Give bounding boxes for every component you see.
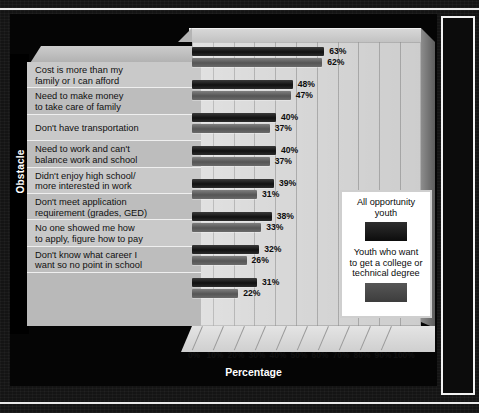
x-axis-tick-labels: 0%10%20%30%40%50%60%70%80%90%100%: [190, 350, 440, 364]
chart-legend: All opportunity youth Youth who want to …: [340, 190, 432, 318]
bar-value-label-1-6: 26%: [252, 255, 269, 265]
bar-0-0: [192, 47, 324, 56]
category-label-0-line2: family or I can afford: [35, 76, 195, 87]
top-divider-rule: [0, 8, 479, 10]
x-tick-90: 90%: [375, 350, 392, 360]
bar-value-label-0-3: 40%: [281, 145, 298, 155]
plot-top-slab-bevel: [189, 28, 421, 43]
bar-0-1: [192, 80, 293, 89]
category-label-3-line2: balance work and school: [35, 155, 195, 166]
floor-leader-50: [276, 326, 287, 350]
x-tick-40: 40%: [270, 350, 287, 360]
category-label-6-line1: No one showed me how: [35, 223, 195, 234]
floor-leader-40: [255, 326, 266, 350]
category-label-6: No one showed me howto apply, figure how…: [27, 220, 201, 246]
bar-value-label-1-7: 22%: [243, 288, 260, 298]
bar-value-label-1-5: 33%: [266, 222, 283, 232]
plot-floor: [181, 326, 435, 352]
legend-entry-2-line1: Youth who want: [354, 247, 419, 257]
category-label-7-line1: Don't know what career I: [35, 250, 195, 261]
bar-0-4: [192, 179, 274, 188]
x-tick-70: 70%: [333, 350, 350, 360]
floor-leader-100: [381, 326, 392, 350]
right-side-panel: [441, 16, 475, 395]
category-label-4-line2: more interested in work: [35, 181, 195, 192]
bar-0-5: [192, 212, 272, 221]
bar-1-3: [192, 157, 270, 166]
legend-entry-2-line2: to get a college or: [349, 258, 422, 268]
bar-1-4: [192, 190, 257, 199]
category-label-1-line2: to take care of family: [35, 102, 195, 113]
legend-swatch-college-degree-youth: [365, 283, 407, 302]
bar-1-2: [192, 124, 270, 133]
category-label-6-line2: to apply, figure how to pay: [35, 234, 195, 245]
bar-value-label-1-1: 47%: [296, 90, 313, 100]
category-label-2-line1: Don't have transportation: [35, 123, 195, 134]
floor-leader-70: [318, 326, 329, 350]
floor-leader-60: [297, 326, 308, 350]
bar-value-label-0-4: 39%: [279, 178, 296, 188]
floor-leader-20: [213, 326, 224, 350]
bar-0-3: [192, 146, 276, 155]
category-label-0: Cost is more than myfamily or I can affo…: [27, 62, 201, 88]
bar-1-6: [192, 256, 247, 265]
bar-value-label-1-2: 37%: [275, 123, 292, 133]
category-label-4-line1: Didn't enjoy high school/: [35, 171, 195, 182]
chart-page: Obstacle Cost is more than myfamily or I…: [0, 0, 479, 413]
category-label-5-line2: requirement (grades, GED): [35, 208, 195, 219]
floor-leader-10: [192, 326, 203, 350]
bar-1-5: [192, 223, 261, 232]
legend-entry-1-line1: All opportunity: [357, 197, 415, 207]
category-label-7-line2: want so no point in school: [35, 260, 195, 271]
bottom-divider-rule: [0, 402, 479, 404]
bar-value-label-0-2: 40%: [281, 112, 298, 122]
category-label-3-line1: Need to work and can't: [35, 144, 195, 155]
category-label-3: Need to work and can'tbalance work and s…: [27, 141, 201, 167]
bar-value-label-0-5: 38%: [277, 211, 294, 221]
x-tick-0: 0%: [188, 350, 200, 360]
bar-value-label-0-6: 32%: [264, 244, 281, 254]
category-label-1: Need to make moneyto take care of family: [27, 88, 201, 114]
bar-1-0: [192, 58, 322, 67]
bar-value-label-0-1: 48%: [298, 79, 315, 89]
legend-swatch-all-opportunity-youth: [365, 222, 407, 241]
bar-0-6: [192, 245, 259, 254]
legend-entry-1-line2: youth: [375, 208, 397, 218]
bar-0-2: [192, 113, 276, 122]
category-label-2: Don't have transportation: [27, 115, 201, 141]
bar-1-1: [192, 91, 291, 100]
category-label-5: Don't meet applicationrequirement (grade…: [27, 194, 201, 220]
x-tick-50: 50%: [291, 350, 308, 360]
category-label-4: Didn't enjoy high school/more interested…: [27, 168, 201, 194]
chart-stage: Obstacle Cost is more than myfamily or I…: [10, 14, 437, 386]
floor-leader-30: [234, 326, 245, 350]
x-axis-title: Percentage: [225, 366, 282, 378]
x-tick-30: 30%: [249, 350, 266, 360]
floor-leader-90: [360, 326, 371, 350]
x-tick-10: 10%: [207, 350, 224, 360]
x-tick-60: 60%: [312, 350, 329, 360]
bar-value-label-1-0: 62%: [327, 57, 344, 67]
category-label-5-line1: Don't meet application: [35, 197, 195, 208]
legend-entry-1-label: All opportunity youth: [346, 197, 426, 218]
bar-1-7: [192, 289, 238, 298]
floor-leader-80: [339, 326, 350, 350]
x-tick-20: 20%: [228, 350, 245, 360]
bar-value-label-0-0: 63%: [329, 46, 346, 56]
category-label-column: Cost is more than myfamily or I can affo…: [27, 62, 201, 326]
bar-value-label-1-4: 31%: [262, 189, 279, 199]
x-tick-100: 100%: [393, 350, 414, 360]
x-tick-80: 80%: [354, 350, 371, 360]
bar-value-label-1-3: 37%: [275, 156, 292, 166]
y-axis-title: Obstacle: [15, 102, 26, 242]
x-axis-title-wrap: Percentage: [10, 366, 437, 378]
bar-value-label-0-7: 31%: [262, 277, 279, 287]
legend-entry-2-label: Youth who want to get a college or techn…: [346, 247, 426, 279]
category-label-1-line1: Need to make money: [35, 91, 195, 102]
category-label-7: Don't know what career Iwant so no point…: [27, 247, 201, 273]
bar-0-7: [192, 278, 257, 287]
category-label-0-line1: Cost is more than my: [35, 65, 195, 76]
legend-entry-2-line3: technical degree: [352, 268, 419, 278]
